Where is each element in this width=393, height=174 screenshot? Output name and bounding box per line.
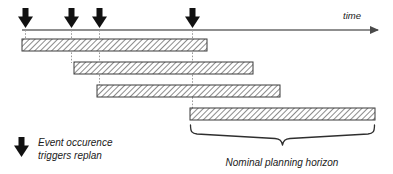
event-arrow-3-icon <box>92 8 107 28</box>
event-arrow-4-icon <box>185 8 200 28</box>
diagram-canvas: time <box>0 0 393 174</box>
legend-label-line-1: Event occurence <box>38 137 113 148</box>
nominal-horizon-brace: Nominal planning horizon <box>191 125 375 168</box>
legend: Event occurence triggers replan <box>14 137 113 161</box>
legend-arrow-icon <box>14 137 29 157</box>
event-arrow-2-icon <box>64 8 79 28</box>
planning-bars-group <box>22 39 375 120</box>
legend-label-line-2: triggers replan <box>38 150 102 161</box>
planning-bar-2 <box>74 62 253 74</box>
replanning-timeline-diagram: time <box>0 0 393 174</box>
curly-brace-icon <box>191 125 375 145</box>
event-arrows-group <box>18 8 200 28</box>
nominal-horizon-label: Nominal planning horizon <box>226 157 339 168</box>
event-arrow-1-icon <box>18 8 33 28</box>
planning-bar-3 <box>97 85 280 97</box>
planning-bar-4 <box>190 108 375 120</box>
time-axis-label: time <box>343 10 361 21</box>
planning-bar-1 <box>22 39 207 51</box>
